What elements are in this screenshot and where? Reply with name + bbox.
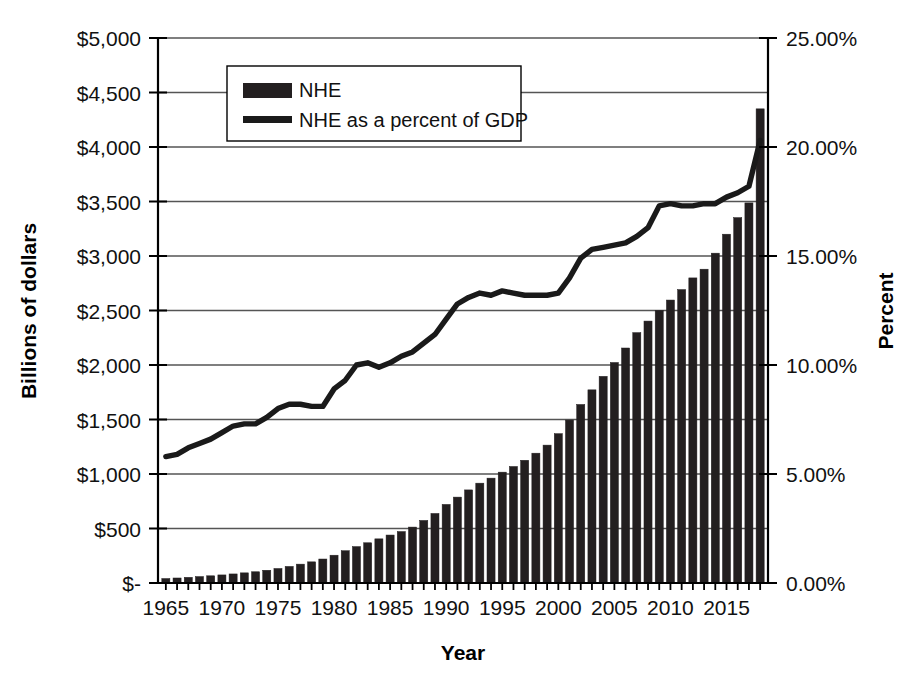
- y-axis-left-tick-label: $5,000: [77, 27, 141, 50]
- x-axis-tick-label: 2010: [647, 596, 694, 619]
- x-axis-tick-label: 1965: [142, 596, 189, 619]
- chart-figure: $-$500$1,000$1,500$2,000$2,500$3,000$3,5…: [0, 0, 921, 686]
- chart-legend: NHE NHE as a percent of GDP: [227, 66, 528, 141]
- bar: [588, 390, 596, 583]
- bar: [218, 575, 226, 583]
- x-axis-tick-label: 1985: [367, 596, 414, 619]
- bar: [521, 460, 529, 583]
- legend-swatch-line: [243, 116, 292, 123]
- x-axis-tick-label: 2000: [535, 596, 582, 619]
- bar: [409, 527, 417, 583]
- bar: [532, 453, 540, 583]
- bar: [554, 434, 562, 583]
- bar: [319, 559, 327, 583]
- bar: [610, 362, 618, 583]
- bar: [465, 490, 473, 583]
- bar: [453, 497, 461, 583]
- bar: [644, 321, 652, 583]
- y-axis-right-tick-label: 5.00%: [786, 463, 846, 486]
- y-axis-left-title: Billions of dollars: [17, 223, 40, 399]
- bar: [420, 520, 428, 583]
- x-axis-tick-label: 1975: [255, 596, 302, 619]
- bar: [734, 218, 742, 583]
- legend-swatch-bar: [243, 83, 292, 98]
- bar: [364, 543, 372, 583]
- x-axis-title: Year: [441, 641, 485, 664]
- bar: [296, 564, 304, 583]
- bar: [722, 234, 730, 583]
- y-axis-right-tick-label: 0.00%: [786, 572, 846, 595]
- legend-label-nhe: NHE: [299, 79, 341, 101]
- x-axis-tick-label: 1970: [199, 596, 246, 619]
- bar: [666, 300, 674, 583]
- y-axis-left-tick-label: $4,000: [77, 136, 141, 159]
- bar: [543, 445, 551, 583]
- y-axis-left-tick-label: $500: [94, 518, 141, 541]
- y-axis-left-tick-label: $-: [122, 572, 141, 595]
- bar: [308, 562, 316, 583]
- bar: [229, 574, 237, 583]
- bar: [577, 404, 585, 583]
- bar: [756, 109, 764, 583]
- bar: [622, 348, 630, 583]
- y-axis-left-tick-label: $3,000: [77, 245, 141, 268]
- y-axis-left-tick-label: $2,000: [77, 354, 141, 377]
- bar: [341, 551, 349, 583]
- x-axis-tick-label: 1990: [423, 596, 470, 619]
- bar: [678, 290, 686, 583]
- bar: [274, 569, 282, 584]
- bar: [745, 203, 753, 583]
- bar: [397, 532, 405, 583]
- bar: [263, 570, 271, 583]
- bar: [655, 310, 663, 583]
- y-axis-right-tick-label: 25.00%: [786, 27, 857, 50]
- bar: [498, 472, 506, 583]
- y-axis-right-tick-label: 10.00%: [786, 354, 857, 377]
- bar: [386, 535, 394, 583]
- bar: [487, 478, 495, 583]
- bar: [431, 513, 439, 583]
- bar: [442, 504, 450, 583]
- x-axis-tick-label: 2005: [591, 596, 638, 619]
- bar: [252, 572, 260, 583]
- bar: [476, 483, 484, 583]
- bar: [689, 278, 697, 583]
- y-axis-left-tick-label: $1,000: [77, 463, 141, 486]
- x-axis-tick-label: 1995: [479, 596, 526, 619]
- bar: [565, 420, 573, 583]
- bar: [633, 333, 641, 583]
- bar: [711, 253, 719, 583]
- x-axis-tick-labels: 1965197019751980198519901995200020052010…: [142, 596, 749, 619]
- y-axis-right-title: Percent: [874, 272, 897, 349]
- bar: [375, 539, 383, 583]
- bar: [509, 466, 517, 583]
- chart-canvas: $-$500$1,000$1,500$2,000$2,500$3,000$3,5…: [0, 0, 921, 686]
- bar: [599, 376, 607, 583]
- y-axis-left-tick-label: $2,500: [77, 300, 141, 323]
- legend-label-nhe-percent-gdp: NHE as a percent of GDP: [299, 109, 528, 131]
- bar: [285, 566, 293, 583]
- y-axis-right-tick-label: 20.00%: [786, 136, 857, 159]
- bar: [330, 555, 338, 583]
- bar: [240, 573, 248, 583]
- x-axis-tick-label: 1980: [311, 596, 358, 619]
- bar: [700, 269, 708, 583]
- y-axis-right-tick-label: 15.00%: [786, 245, 857, 268]
- y-axis-left-tick-label: $4,500: [77, 82, 141, 105]
- bar: [352, 547, 360, 583]
- y-axis-left-tick-label: $3,500: [77, 191, 141, 214]
- y-axis-left-tick-label: $1,500: [77, 409, 141, 432]
- x-axis-tick-label: 2015: [703, 596, 750, 619]
